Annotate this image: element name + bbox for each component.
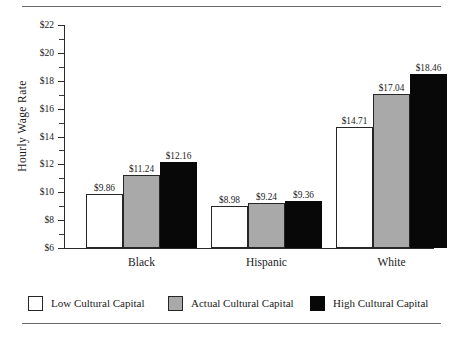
legend-swatch-high bbox=[310, 296, 325, 311]
bar[interactable]: $9.36 bbox=[285, 201, 322, 248]
y-tick-label: $8 bbox=[0, 215, 54, 225]
bar[interactable]: $8.98 bbox=[211, 206, 248, 248]
legend-item[interactable]: High Cultural Capital bbox=[310, 293, 428, 313]
bar-value-label: $9.24 bbox=[256, 192, 277, 202]
bar[interactable]: $9.86 bbox=[86, 194, 123, 248]
legend-swatch-actual bbox=[168, 296, 183, 311]
category-label: Black bbox=[128, 256, 155, 268]
y-tick-label: $14 bbox=[0, 132, 54, 142]
bar-value-label: $14.71 bbox=[342, 116, 368, 126]
y-tick-label: $18 bbox=[0, 76, 54, 86]
bar-value-label: $11.24 bbox=[129, 164, 154, 174]
category-label: White bbox=[377, 256, 405, 268]
bar-value-label: $18.46 bbox=[416, 63, 442, 73]
bar-value-label: $9.86 bbox=[94, 183, 115, 193]
figure-top-rule bbox=[22, 6, 441, 7]
category-label: Hispanic bbox=[246, 256, 287, 268]
y-tick-label: $22 bbox=[0, 20, 54, 30]
bar[interactable]: $14.71 bbox=[336, 127, 373, 248]
legend-item[interactable]: Low Cultural Capital bbox=[28, 293, 144, 313]
bar-group: $14.71$17.04$18.46 bbox=[336, 25, 447, 248]
chart-legend: Low Cultural CapitalActual Cultural Capi… bbox=[0, 293, 463, 317]
bar-groups: $9.86$11.24$12.16$8.98$9.24$9.36$14.71$1… bbox=[64, 25, 434, 248]
legend-label: High Cultural Capital bbox=[333, 297, 428, 309]
legend-item[interactable]: Actual Cultural Capital bbox=[168, 293, 294, 313]
figure-bottom-rule bbox=[22, 323, 441, 324]
plot-area: Hourly Wage Rate $6$8$10$12$14$16$18$20$… bbox=[0, 16, 463, 266]
y-tick-label: $12 bbox=[0, 159, 54, 169]
bar-value-label: $12.16 bbox=[166, 151, 192, 161]
bar-value-label: $17.04 bbox=[379, 83, 405, 93]
y-tick-label: $10 bbox=[0, 187, 54, 197]
x-axis-line bbox=[58, 248, 434, 249]
bar[interactable]: $17.04 bbox=[373, 94, 410, 248]
bar[interactable]: $9.24 bbox=[248, 203, 285, 248]
legend-label: Low Cultural Capital bbox=[51, 297, 144, 309]
y-tick-label: $16 bbox=[0, 104, 54, 114]
legend-label: Actual Cultural Capital bbox=[191, 297, 294, 309]
legend-swatch-low bbox=[28, 296, 43, 311]
figure-container: Hourly Wage Rate $6$8$10$12$14$16$18$20$… bbox=[0, 0, 463, 337]
bar[interactable]: $11.24 bbox=[123, 175, 160, 248]
y-tick-label: $20 bbox=[0, 48, 54, 58]
bar-group: $9.86$11.24$12.16 bbox=[86, 25, 197, 248]
bar-value-label: $9.36 bbox=[293, 190, 314, 200]
bar-group: $8.98$9.24$9.36 bbox=[211, 25, 322, 248]
y-tick-label: $6 bbox=[0, 243, 54, 253]
bar-value-label: $8.98 bbox=[219, 195, 240, 205]
bar[interactable]: $18.46 bbox=[410, 74, 447, 248]
bar[interactable]: $12.16 bbox=[160, 162, 197, 248]
